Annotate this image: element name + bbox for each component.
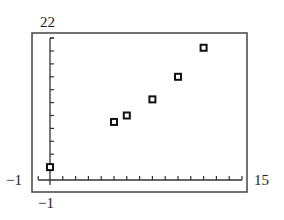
data-point [111, 119, 117, 125]
data-point [47, 164, 53, 170]
x-min-label: −1 [6, 173, 22, 188]
scatter-plot [0, 0, 284, 220]
data-point [175, 74, 181, 80]
plot-frame [32, 33, 247, 192]
axes [38, 38, 242, 185]
data-point [201, 45, 207, 51]
x-max-label: 15 [254, 173, 269, 188]
data-point [149, 96, 155, 102]
y-max-label: 22 [40, 15, 55, 30]
data-points [47, 45, 207, 170]
y-min-label: −1 [38, 196, 54, 211]
data-point [124, 113, 130, 119]
